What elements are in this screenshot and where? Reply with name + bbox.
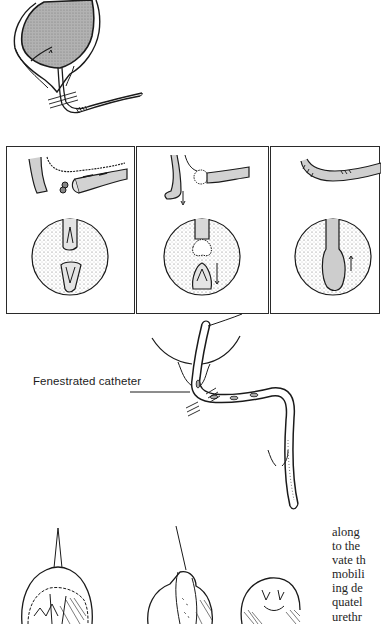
body-text-line: mobili xyxy=(332,567,385,581)
bladder-illustration xyxy=(0,0,150,125)
body-text-line: along xyxy=(332,525,385,539)
body-text-column: along to the vate th mobili ing de quate… xyxy=(332,525,385,624)
fenestrated-catheter-label: Fenestrated catheter xyxy=(33,375,141,387)
panel-2 xyxy=(136,146,269,314)
body-text-line: quatel xyxy=(332,595,385,609)
bottom-illustrations xyxy=(0,520,330,624)
body-text-line: urethr xyxy=(332,610,385,624)
body-text-line: to the xyxy=(332,539,385,553)
panel-3 xyxy=(270,146,380,314)
catheter-illustration xyxy=(0,310,374,510)
panel-1 xyxy=(6,146,135,314)
body-text-line: ing de xyxy=(332,581,385,595)
body-text-line: vate th xyxy=(332,553,385,567)
